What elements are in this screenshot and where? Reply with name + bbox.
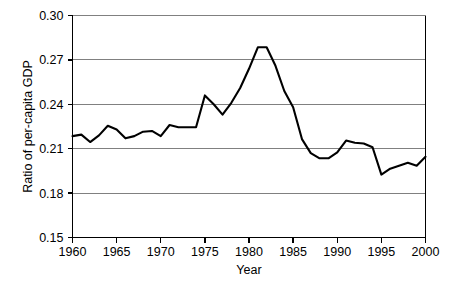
y-tick-label-0: 0.15	[39, 231, 63, 245]
y-tick-label-4: 0.27	[39, 53, 63, 67]
x-tick-label-7: 1995	[367, 245, 395, 259]
y-tick-label-3: 0.24	[39, 98, 63, 112]
x-tick-label-3: 1975	[191, 245, 219, 259]
chart-plot-svg: 0.150.180.210.240.270.301960196519701975…	[0, 0, 453, 286]
y-tick-label-2: 0.21	[39, 142, 63, 156]
x-tick-label-8: 2000	[412, 245, 440, 259]
data-series-line	[73, 47, 426, 174]
gridlines-horizontal	[73, 16, 426, 194]
x-axis-title: Year	[236, 263, 261, 277]
axes	[73, 16, 426, 238]
x-axis-ticks: 196019651970197519801985199019952000	[59, 238, 440, 260]
x-tick-label-4: 1980	[235, 245, 263, 259]
y-axis-ticks: 0.150.180.210.240.270.30	[39, 9, 72, 245]
x-tick-label-2: 1970	[147, 245, 175, 259]
y-tick-label-1: 0.18	[39, 187, 63, 201]
y-tick-label-5: 0.30	[39, 9, 63, 23]
chart-figure: 0.150.180.210.240.270.301960196519701975…	[0, 0, 453, 286]
y-axis-title: Ratio of per-capita GDP	[21, 60, 35, 193]
x-tick-label-0: 1960	[59, 245, 87, 259]
x-tick-label-1: 1965	[103, 245, 131, 259]
x-tick-label-6: 1990	[323, 245, 351, 259]
x-tick-label-5: 1985	[279, 245, 307, 259]
